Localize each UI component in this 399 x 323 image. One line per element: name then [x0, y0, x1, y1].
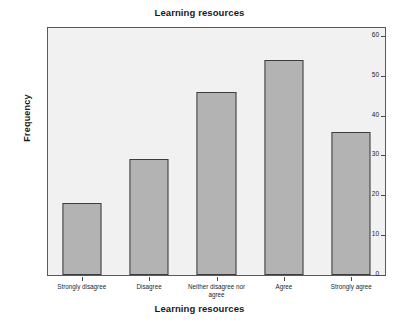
y-axis-tick-mark	[381, 275, 385, 276]
x-axis-tick-mark	[149, 277, 150, 281]
bar-slot	[48, 28, 115, 275]
bar-slot	[183, 28, 250, 275]
x-axis-tick-mark	[82, 277, 83, 281]
x-axis-tick-mark	[217, 277, 218, 281]
chart-figure: Learning resources 0102030405060 Frequen…	[0, 0, 399, 323]
x-axis-tick-label: Strongly agree	[315, 283, 388, 291]
x-axis-tick-label: Agree	[247, 283, 320, 291]
x-axis-tick-label: Disagree	[112, 283, 185, 291]
y-axis-title: Frequency	[22, 58, 32, 178]
bar[interactable]	[197, 92, 236, 275]
x-axis-tick-mark	[284, 277, 285, 281]
bar-slot	[250, 28, 317, 275]
bar-slot	[318, 28, 385, 275]
bar[interactable]	[332, 132, 371, 275]
bar-slot	[115, 28, 182, 275]
bar[interactable]	[130, 159, 169, 275]
x-axis-title: Learning resources	[0, 303, 399, 314]
bar[interactable]	[62, 203, 101, 275]
plot-area	[48, 28, 385, 275]
x-axis-tick-label: Neither disagree nor agree	[180, 283, 253, 298]
x-axis-tick-label: Strongly disagree	[45, 283, 118, 291]
chart-title: Learning resources	[0, 7, 399, 18]
x-axis-tick-mark	[351, 277, 352, 281]
bar[interactable]	[264, 60, 303, 275]
plot-frame: 0102030405060	[47, 27, 386, 276]
